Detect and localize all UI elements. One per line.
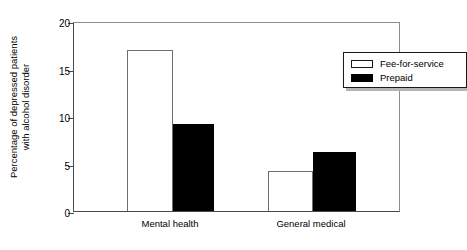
legend-label: Prepaid (380, 72, 413, 83)
bar-fee-for-service-mental-health (127, 50, 173, 212)
legend-label: Fee-for-service (380, 58, 444, 69)
x-axis-category-label-mental-health: Mental health (141, 218, 198, 229)
bar-prepaid-general-medical (313, 152, 356, 211)
legend: Fee-for-service Prepaid (343, 52, 467, 88)
plot-area: 0 5 10 15 20 Fee-for-service (73, 22, 400, 212)
bar-prepaid-mental-health (173, 124, 214, 211)
legend-item-fee-for-service: Fee-for-service (351, 57, 466, 70)
y-axis-title-line-1: Percentage of depressed patients (8, 0, 20, 222)
x-axis-category-label-general-medical: General medical (276, 218, 345, 229)
y-axis-title: Percentage of depressed patients with al… (8, 0, 38, 222)
legend-item-prepaid: Prepaid (351, 71, 466, 84)
y-tick-label: 20 (59, 18, 70, 29)
y-tick-label: 0 (64, 208, 70, 219)
legend-swatch-filled-icon (351, 74, 373, 82)
y-tick-label: 5 (64, 160, 70, 171)
y-tick-label: 15 (59, 65, 70, 76)
legend-swatch-open-icon (351, 60, 373, 68)
y-axis-title-line-2: with alcohol disorder (20, 0, 32, 222)
bar-fee-for-service-general-medical (268, 171, 313, 211)
y-tick-label: 10 (59, 113, 70, 124)
